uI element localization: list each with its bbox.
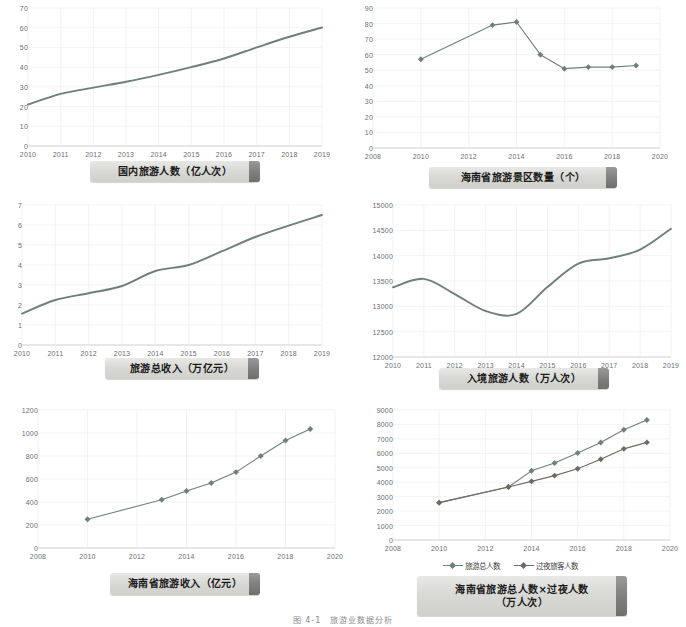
x-axis-tick-label: 2018 bbox=[604, 153, 620, 160]
x-axis-tick-label: 2008 bbox=[30, 553, 46, 560]
chart-panel-total-tourism-revenue: 0123456720102011201220132014201520162017… bbox=[0, 195, 343, 385]
plot-area-domestic-tourists: 0102030405060702010201120122013201420152… bbox=[28, 8, 322, 146]
x-axis-tick-label: 2014 bbox=[508, 153, 524, 160]
y-axis-tick-label: 12000 bbox=[363, 354, 393, 361]
y-axis-tick-label: 90 bbox=[351, 5, 373, 12]
y-axis-tick-label: 1000 bbox=[10, 430, 38, 437]
data-point-marker bbox=[258, 453, 264, 459]
x-axis-tick-label: 2019 bbox=[314, 350, 330, 357]
series-line-0 bbox=[88, 429, 311, 519]
y-axis-tick-label: 1200 bbox=[10, 407, 38, 414]
x-axis-tick-label: 2010 bbox=[413, 153, 429, 160]
x-axis-tick-label: 2008 bbox=[365, 153, 381, 160]
x-axis-tick-label: 2013 bbox=[118, 151, 134, 158]
chart-title-domestic-tourists: 国内旅游人数（亿人次） bbox=[90, 161, 260, 182]
data-point-marker bbox=[644, 439, 650, 445]
y-axis-tick-label: 5 bbox=[6, 242, 22, 249]
y-axis-tick-label: 20 bbox=[6, 103, 28, 110]
data-point-marker bbox=[283, 438, 289, 444]
series-line-0 bbox=[28, 28, 322, 105]
series-line-0 bbox=[439, 420, 647, 503]
data-point-marker bbox=[598, 440, 604, 446]
x-axis-tick-label: 2015 bbox=[183, 151, 199, 158]
data-point-marker bbox=[307, 426, 313, 432]
x-axis-tick-label: 2012 bbox=[80, 350, 96, 357]
chart-title-inbound-tourists: 入境旅游人数（万人次） bbox=[439, 368, 609, 389]
x-axis-tick-label: 2015 bbox=[180, 350, 196, 357]
plot-area-total-tourism-revenue: 0123456720102011201220132014201520162017… bbox=[22, 205, 322, 345]
x-axis-tick-label: 2014 bbox=[147, 350, 163, 357]
series-line-0 bbox=[393, 229, 671, 316]
y-axis-tick-label: 4 bbox=[6, 262, 22, 269]
y-axis-tick-label: 50 bbox=[6, 44, 28, 51]
y-axis-tick-label: 30 bbox=[6, 83, 28, 90]
y-axis-tick-label: 20 bbox=[351, 113, 373, 120]
x-axis-tick-label: 2020 bbox=[662, 545, 678, 552]
chart-panel-domestic-tourists: 0102030405060702010201120122013201420152… bbox=[0, 0, 343, 190]
data-point-marker bbox=[561, 66, 567, 72]
y-axis-tick-label: 40 bbox=[351, 82, 373, 89]
x-axis-tick-label: 2018 bbox=[280, 350, 296, 357]
y-axis-tick-label: 13500 bbox=[363, 278, 393, 285]
data-point-marker bbox=[575, 466, 581, 472]
plot-area-inbound-tourists: 1200012500130001350014000145001500020102… bbox=[393, 205, 671, 357]
data-point-marker bbox=[609, 64, 615, 70]
data-point-marker bbox=[552, 473, 558, 479]
y-axis-tick-label: 14000 bbox=[363, 252, 393, 259]
x-axis-tick-label: 2018 bbox=[277, 553, 293, 560]
x-axis-tick-label: 2010 bbox=[385, 362, 401, 369]
chart-title-hainan-total-and-overnight: 海南省旅游总人数×过夜人数 （万人次） bbox=[417, 576, 627, 616]
y-axis-tick-label: 0 bbox=[10, 545, 38, 552]
x-axis-tick-label: 2014 bbox=[523, 545, 539, 552]
data-point-marker bbox=[598, 456, 604, 462]
data-point-marker bbox=[585, 64, 591, 70]
chart-svg bbox=[393, 410, 670, 540]
data-point-marker bbox=[85, 516, 91, 522]
x-axis-tick-label: 2016 bbox=[214, 350, 230, 357]
data-point-marker bbox=[529, 478, 535, 484]
x-axis-tick-label: 2016 bbox=[569, 545, 585, 552]
y-axis-tick-label: 10 bbox=[6, 123, 28, 130]
data-point-marker bbox=[644, 417, 650, 423]
y-axis-tick-label: 200 bbox=[10, 522, 38, 529]
data-point-marker bbox=[418, 56, 424, 62]
y-axis-tick-label: 9000 bbox=[363, 407, 393, 414]
x-axis-tick-label: 2018 bbox=[616, 545, 632, 552]
x-axis-tick-label: 2016 bbox=[228, 553, 244, 560]
y-axis-tick-label: 60 bbox=[351, 51, 373, 58]
plot-area-hainan-tourism-revenue: 0200400600800100012002008201020122014201… bbox=[38, 410, 335, 548]
y-axis-tick-label: 7 bbox=[6, 202, 22, 209]
legend-item-total: 旅游总人数 bbox=[443, 560, 500, 571]
x-axis-tick-label: 2020 bbox=[327, 553, 343, 560]
chart-title-hainan-tourism-revenue: 海南省旅游收入（亿元） bbox=[110, 573, 260, 595]
x-axis-tick-label: 2012 bbox=[129, 553, 145, 560]
y-axis-tick-label: 30 bbox=[351, 98, 373, 105]
figure-grid: 0102030405060702010201120122013201420152… bbox=[0, 0, 686, 627]
y-axis-tick-label: 8000 bbox=[363, 421, 393, 428]
y-axis-tick-label: 12500 bbox=[363, 328, 393, 335]
y-axis-tick-label: 3000 bbox=[363, 493, 393, 500]
y-axis-tick-label: 70 bbox=[351, 36, 373, 43]
figure-caption: 图 4-1 旅游业数据分析 bbox=[0, 614, 686, 625]
x-axis-tick-label: 2010 bbox=[14, 350, 30, 357]
data-point-marker bbox=[208, 480, 214, 486]
y-axis-tick-label: 0 bbox=[6, 342, 22, 349]
y-axis-tick-label: 6 bbox=[6, 222, 22, 229]
y-axis-tick-label: 6000 bbox=[363, 450, 393, 457]
x-axis-tick-label: 2019 bbox=[314, 151, 330, 158]
y-axis-tick-label: 4000 bbox=[363, 479, 393, 486]
y-axis-tick-label: 3 bbox=[6, 282, 22, 289]
chart-panel-hainan-scenic-spots: 0102030405060708090200820102012201420162… bbox=[343, 0, 686, 195]
plot-area-hainan-scenic-spots: 0102030405060708090200820102012201420162… bbox=[373, 8, 660, 148]
data-point-marker bbox=[633, 63, 639, 69]
plot-area-hainan-total-and-overnight: 0100020003000400050006000700080009000200… bbox=[393, 410, 670, 540]
legend-item-overnight: 过夜旅客人数 bbox=[514, 560, 578, 571]
y-axis-tick-label: 40 bbox=[6, 64, 28, 71]
y-axis-tick-label: 50 bbox=[351, 67, 373, 74]
y-axis-tick-label: 2 bbox=[6, 302, 22, 309]
y-axis-tick-label: 60 bbox=[6, 24, 28, 31]
x-axis-tick-label: 2017 bbox=[247, 350, 263, 357]
y-axis-tick-label: 2000 bbox=[363, 508, 393, 515]
chart-title-total-tourism-revenue: 旅游总收入（万亿元） bbox=[105, 358, 259, 379]
x-axis-tick-label: 2013 bbox=[114, 350, 130, 357]
